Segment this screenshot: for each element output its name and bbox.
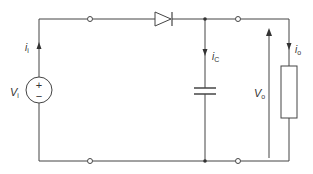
- cap-current-arrow-icon: [203, 49, 208, 56]
- source-minus: −: [36, 90, 42, 102]
- output-current-label: io: [295, 44, 301, 56]
- output-current-arrow-icon: [287, 43, 292, 50]
- terminal-top-right: [236, 17, 241, 22]
- terminal-bottom-right: [236, 159, 241, 164]
- output-voltage-arrowhead-icon: [266, 28, 272, 36]
- output-voltage-label: Vo: [254, 87, 265, 100]
- input-current-label: ii: [25, 42, 29, 54]
- circuit-diagram: + − ii Vi iC io Vo: [0, 0, 313, 174]
- junction-dot-top: [203, 17, 207, 21]
- junction-dot-bottom: [203, 159, 207, 163]
- cap-current-label: iC: [212, 51, 219, 63]
- input-current-arrow-icon: [37, 42, 42, 49]
- resistor-icon: [281, 66, 297, 118]
- input-voltage-label: Vi: [10, 86, 19, 99]
- terminal-bottom-left: [88, 159, 93, 164]
- diode-icon: [155, 12, 172, 26]
- terminal-top-left: [88, 17, 93, 22]
